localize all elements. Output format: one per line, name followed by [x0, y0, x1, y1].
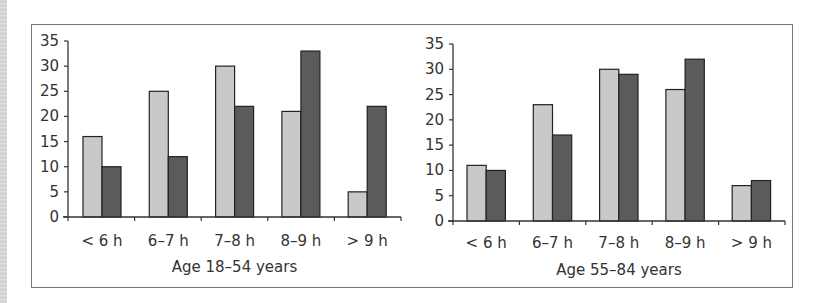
y-tick-label: 20 — [425, 111, 444, 129]
bar-light-0 — [83, 137, 102, 217]
y-tick-label: 0 — [49, 208, 59, 226]
y-tick-label: 10 — [40, 158, 59, 176]
y-tick-label: 15 — [40, 133, 59, 151]
x-tick-label: > 9 h — [347, 232, 388, 250]
y-tick-label: 30 — [425, 60, 444, 78]
bar-dark-4 — [367, 106, 386, 217]
charts-canvas: < 6 h6–7 h7–8 h8–9 h> 9 h05101520253035A… — [0, 0, 818, 303]
x-tick-label: < 6 h — [81, 232, 122, 250]
x-tick-label: 8–9 h — [665, 234, 706, 252]
bar-dark-2 — [235, 106, 254, 217]
y-tick-label: 10 — [425, 161, 444, 179]
y-tick-label: 30 — [40, 57, 59, 75]
bar-dark-1 — [168, 157, 187, 217]
y-tick-label: 35 — [40, 32, 59, 50]
y-tick-label: 5 — [49, 183, 59, 201]
x-tick-label: 6–7 h — [532, 234, 573, 252]
bar-light-1 — [533, 105, 552, 221]
bar-light-3 — [666, 90, 685, 221]
y-tick-label: 20 — [40, 107, 59, 125]
bar-light-4 — [348, 192, 367, 217]
bar-light-1 — [149, 91, 168, 217]
bar-dark-0 — [102, 167, 121, 217]
bar-dark-3 — [301, 51, 320, 217]
bar-dark-3 — [685, 59, 704, 221]
x-tick-label: 8–9 h — [280, 232, 321, 250]
bar-light-0 — [467, 165, 486, 221]
bar-light-2 — [216, 66, 235, 217]
chart-panel-age-55-84: < 6 h6–7 h7–8 h8–9 h> 9 h05101520253035A… — [425, 35, 785, 279]
y-tick-label: 25 — [425, 86, 444, 104]
y-tick-label: 0 — [434, 212, 444, 230]
bar-dark-1 — [553, 135, 572, 221]
y-tick-label: 35 — [425, 35, 444, 53]
y-tick-label: 15 — [425, 136, 444, 154]
y-tick-label: 5 — [434, 187, 444, 205]
bar-light-4 — [732, 186, 751, 221]
bar-light-2 — [600, 69, 619, 221]
bar-dark-0 — [486, 170, 505, 221]
x-tick-label: < 6 h — [466, 234, 507, 252]
x-tick-label: > 9 h — [731, 234, 772, 252]
x-tick-label: 7–8 h — [598, 234, 639, 252]
panel-title: Age 18–54 years — [172, 258, 298, 276]
chart-panel-age-18-54: < 6 h6–7 h7–8 h8–9 h> 9 h05101520253035A… — [40, 32, 401, 276]
panel-title: Age 55–84 years — [556, 261, 682, 279]
y-tick-label: 25 — [40, 82, 59, 100]
bar-dark-4 — [751, 181, 770, 221]
bar-light-3 — [282, 111, 301, 217]
x-tick-label: 6–7 h — [148, 232, 189, 250]
x-tick-label: 7–8 h — [214, 232, 255, 250]
bar-dark-2 — [619, 74, 638, 221]
